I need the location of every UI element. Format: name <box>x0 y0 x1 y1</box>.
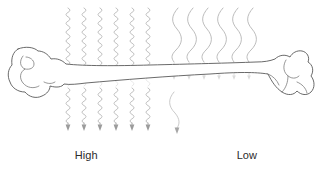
high-kvp-label: High kVp <box>62 136 98 169</box>
high-kvp-beams-below <box>66 88 150 123</box>
low-kvp-label: Low kVp <box>224 136 257 169</box>
diagram-canvas <box>0 0 320 169</box>
high-kvp-wave-below-4 <box>114 88 118 123</box>
high-kvp-wave-above-4 <box>114 8 118 65</box>
xray-kvp-diagram: High kVp Low kVp <box>0 0 320 169</box>
low-kvp-absorbed-arrowhead-5 <box>232 75 236 80</box>
high-kvp-wave-below-2 <box>82 88 86 123</box>
high-kvp-exit-arrow-shafts <box>68 123 148 126</box>
low-kvp-exit-arrowheads <box>175 128 180 135</box>
high-kvp-wave-above-3 <box>98 8 102 65</box>
high-kvp-beams-above <box>66 8 150 65</box>
low-kvp-label-line1: Low <box>237 149 257 161</box>
low-kvp-wave-above-6 <box>247 8 256 62</box>
high-kvp-wave-above-1 <box>66 8 70 65</box>
low-kvp-wave-below-1 <box>170 92 179 128</box>
low-kvp-beams-above <box>172 8 256 62</box>
high-kvp-exit-arrowheads <box>66 125 151 132</box>
high-kvp-wave-above-5 <box>130 8 134 65</box>
low-kvp-absorbed-arrowheads <box>172 75 251 80</box>
low-kvp-beams-below <box>170 92 179 128</box>
high-kvp-wave-below-3 <box>98 88 102 123</box>
low-kvp-wave-above-5 <box>232 8 241 62</box>
high-kvp-label-line1: High <box>75 149 98 161</box>
femur-bone-outline <box>8 47 314 97</box>
low-kvp-wave-above-2 <box>187 8 196 62</box>
low-kvp-wave-above-1 <box>172 8 181 62</box>
low-kvp-absorbed-arrowhead-3 <box>202 75 206 80</box>
low-kvp-wave-above-3 <box>202 8 211 62</box>
low-kvp-wave-above-4 <box>217 8 226 62</box>
high-kvp-wave-above-6 <box>146 8 150 65</box>
low-kvp-absorbed-arrowhead-6 <box>247 75 251 80</box>
high-kvp-wave-below-5 <box>130 88 134 123</box>
low-kvp-absorbed-arrowhead-4 <box>217 75 221 80</box>
bone-silhouette <box>8 47 314 97</box>
high-kvp-wave-below-1 <box>66 88 70 123</box>
low-kvp-exit-arrowhead-1 <box>175 128 180 135</box>
high-kvp-wave-above-2 <box>82 8 86 65</box>
high-kvp-wave-below-6 <box>146 88 150 123</box>
low-kvp-absorbed-arrowhead-2 <box>187 75 191 80</box>
